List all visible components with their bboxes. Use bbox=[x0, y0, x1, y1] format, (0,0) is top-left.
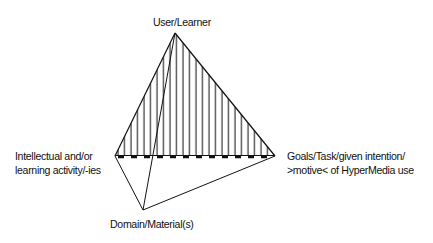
label-line-1: Intellectual and/or bbox=[15, 149, 101, 163]
edge-right-bottom bbox=[143, 156, 275, 210]
label-text: Domain/Material(s) bbox=[110, 218, 194, 230]
hatched-face bbox=[115, 33, 275, 156]
label-line-1: Goals/Task/given intention/ bbox=[287, 149, 414, 163]
label-line-2: learning activity/-ies bbox=[15, 163, 101, 177]
tetrahedron-figure bbox=[0, 0, 433, 243]
vertex-label-goals-task: Goals/Task/given intention/ >motive< of … bbox=[287, 149, 414, 177]
vertex-label-domain-material: Domain/Material(s) bbox=[110, 217, 194, 231]
tetrahedron-diagram: User/Learner Intellectual and/or learnin… bbox=[0, 0, 433, 243]
label-line-2: >motive< of HyperMedia use bbox=[287, 163, 414, 177]
label-text: User/Learner bbox=[153, 16, 211, 28]
vertex-label-intellectual-activity: Intellectual and/or learning activity/-i… bbox=[15, 149, 101, 177]
vertex-label-user-learner: User/Learner bbox=[153, 15, 211, 29]
edge-left-bottom bbox=[115, 156, 143, 210]
